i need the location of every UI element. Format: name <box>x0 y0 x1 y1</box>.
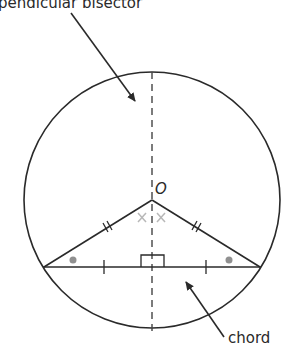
radius-right <box>152 200 260 267</box>
perpendicular-bisector-label: pendicular bisector <box>0 0 143 12</box>
base-angle-dot-right <box>226 257 233 264</box>
chord-label: chord <box>228 329 270 347</box>
center-label: O <box>155 180 167 198</box>
bisector-arrow <box>71 13 135 101</box>
circle-diagram: pendicular bisector O chord <box>0 0 283 351</box>
radius-left <box>44 200 152 267</box>
base-angle-dot-left <box>70 257 77 264</box>
